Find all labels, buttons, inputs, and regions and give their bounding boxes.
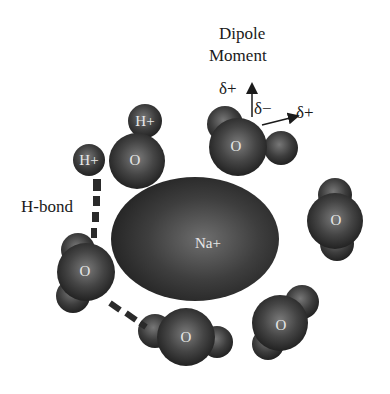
oxygen-label-lower-right: O <box>276 317 287 334</box>
hbond-dashes-diagonal <box>110 303 146 327</box>
delta-plus-up-label: δ+ <box>219 79 237 99</box>
oxygen-label-bottom: O <box>181 329 192 346</box>
oxygen-label-right: O <box>331 212 342 229</box>
oxygen-label-left: O <box>80 263 91 280</box>
hbond-dashes-vertical <box>91 179 101 238</box>
delta-plus-right-label: δ+ <box>296 103 314 123</box>
oxygen-label-upper-left: O <box>130 152 141 169</box>
hydrogen-label-top: H+ <box>135 113 154 130</box>
oxygen-label-top: O <box>231 138 242 155</box>
hbond-label: H-bond <box>21 197 73 217</box>
dipole-title-line2: Moment <box>209 46 267 66</box>
delta-minus-label: δ− <box>254 99 272 119</box>
dipole-title-line1: Dipole <box>219 24 265 44</box>
sodium-ion-label: Na+ <box>195 235 221 252</box>
hydrogen-label-left: H+ <box>79 152 98 169</box>
